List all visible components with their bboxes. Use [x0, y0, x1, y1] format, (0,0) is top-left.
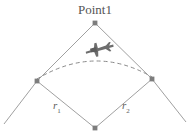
left-node-icon	[35, 79, 40, 84]
figure-container: Point1 r1 r2	[0, 0, 193, 139]
apex-point-label: Point1	[62, 3, 128, 16]
left-to-bottom-edge	[37, 81, 95, 128]
right-radius-subscript: 2	[126, 107, 130, 115]
right-ray-line	[152, 79, 186, 122]
bottom-node-icon	[93, 126, 98, 131]
left-edge-radius-label: r1	[53, 100, 61, 114]
aircraft-icon	[85, 40, 115, 58]
diagram-canvas	[0, 0, 193, 139]
right-edge-radius-label: r2	[122, 100, 130, 114]
apex-node-icon	[93, 21, 98, 26]
apex-to-right-edge	[95, 23, 152, 79]
right-node-icon	[150, 77, 155, 82]
left-ray-line	[4, 81, 37, 124]
left-radius-subscript: 1	[57, 107, 61, 115]
